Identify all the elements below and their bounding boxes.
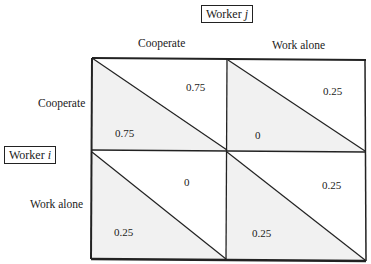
payoff-ww-worker-j: 0.25	[322, 179, 341, 191]
grid-right-border	[365, 60, 366, 261]
grid-top-border	[92, 58, 366, 60]
grid-vertical-divider	[226, 59, 227, 260]
payoff-matrix-grid	[0, 0, 371, 264]
grid-left-border	[91, 58, 92, 259]
payoff-cc-worker-j: 0.75	[186, 81, 205, 93]
payoff-wc-worker-i: 0.25	[114, 226, 133, 238]
payoff-cw-worker-i: 0	[255, 129, 261, 141]
payoff-cw-worker-j: 0.25	[323, 85, 342, 97]
payoff-wc-worker-j: 0	[184, 176, 190, 188]
payoff-ww-worker-i: 0.25	[252, 227, 271, 239]
payoff-cc-worker-i: 0.75	[115, 127, 134, 139]
